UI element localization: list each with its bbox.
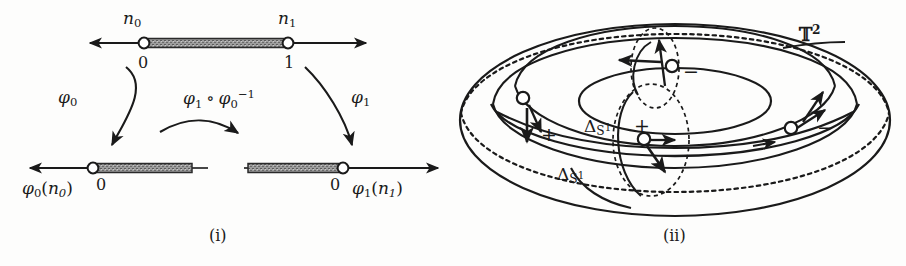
bottom-left-band <box>94 164 192 173</box>
top-interval-band <box>145 39 287 48</box>
node-left <box>517 92 529 104</box>
node-right <box>785 122 797 134</box>
sign-minus-right: − <box>817 118 833 137</box>
caption-i: (i) <box>209 228 227 244</box>
label-top-one: 1 <box>284 55 294 71</box>
phi1-arrow <box>305 67 352 145</box>
label-delta-s1-upper: ΔS1 <box>584 118 611 138</box>
sign-plus-center: + <box>634 116 650 135</box>
top-node-zero <box>139 38 150 49</box>
label-phi0: φ0 <box>58 89 77 109</box>
top-node-one <box>283 38 294 49</box>
transition-arrow <box>160 120 238 133</box>
panel-ii: 𝕋2 − + + − ΔS1 ΔS1 (ii) <box>453 0 906 266</box>
bottom-left-node-zero <box>88 163 99 174</box>
label-n0: n0 <box>123 10 141 30</box>
label-n1: n1 <box>278 10 296 30</box>
caption-ii: (ii) <box>663 228 686 244</box>
phi0-arrow <box>112 67 136 145</box>
label-phi0-n0: φ0(n0) <box>22 180 73 200</box>
label-transition-map: φ1∘φ0−1 <box>183 89 255 110</box>
arrow-top-node-left <box>619 60 661 62</box>
longitude-middle-back-right <box>675 38 857 104</box>
node-top <box>666 60 678 72</box>
figure-container: n0 n1 0 1 φ0 φ1 φ1∘φ0−1 φ0(n0) 0 0 φ1(n1… <box>0 0 906 266</box>
sign-minus-top: − <box>683 62 699 81</box>
label-top-zero: 0 <box>138 55 148 71</box>
sign-plus-left: + <box>541 125 557 144</box>
bottom-right-band <box>248 164 344 173</box>
label-torus-T2: 𝕋2 <box>799 24 820 44</box>
label-delta-s1-lower: ΔS1 <box>557 166 584 186</box>
label-bottom-right-zero: 0 <box>330 177 340 193</box>
label-phi1-n1: φ1(n1) <box>352 180 403 200</box>
label-bottom-left-zero: 0 <box>96 177 106 193</box>
bottom-right-node-zero <box>338 163 349 174</box>
label-phi1: φ1 <box>351 89 370 109</box>
panel-i: n0 n1 0 1 φ0 φ1 φ1∘φ0−1 φ0(n0) 0 0 φ1(n1… <box>0 0 453 266</box>
